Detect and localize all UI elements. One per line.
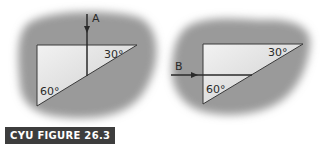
figure-caption: CYU FIGURE 26.3 (5, 127, 115, 144)
figure-b: B 30° 60° (171, 19, 310, 115)
angle-label-30: 30° (268, 46, 288, 59)
angle-label-60: 60° (40, 85, 60, 98)
angle-label-60: 60° (206, 83, 226, 96)
angle-label-30: 30° (104, 48, 124, 61)
prism-figure: A 30° 60° B 30° 60° (0, 0, 326, 148)
figure-a: A 30° 60° (18, 12, 156, 118)
ray-label-a: A (92, 12, 100, 25)
ray-label-b: B (175, 60, 183, 73)
